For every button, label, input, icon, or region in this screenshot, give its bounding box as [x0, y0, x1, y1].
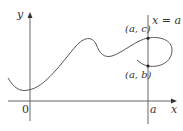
x-tick-a-label: a: [150, 104, 157, 115]
vertical-line-label: x = a: [152, 15, 181, 26]
point-a-b: [147, 65, 150, 68]
x-axis-label: x: [171, 104, 177, 115]
vertical-line-test-diagram: y x 0 a x = a (a, c) (a, b): [0, 0, 183, 131]
y-axis-label: y: [17, 9, 23, 20]
y-axis-arrow-icon: [28, 12, 33, 18]
origin-label: 0: [22, 104, 29, 115]
point-a-c-label: (a, c): [125, 24, 151, 34]
relation-curve: [8, 38, 172, 91]
point-a-b-label: (a, b): [125, 70, 152, 80]
point-a-c: [147, 37, 150, 40]
